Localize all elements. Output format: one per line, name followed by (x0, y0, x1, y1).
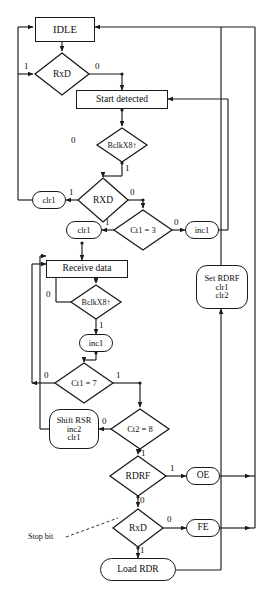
edge-label-rdrf-1: 1 (170, 464, 175, 473)
edge-label-rdrf-0: 0 (140, 496, 145, 505)
edge-label-bclk2-0: 0 (46, 290, 51, 299)
node-start-detected-label: Start detected (96, 95, 148, 105)
edge-label-rxd-bot-1: 1 (140, 546, 145, 555)
node-oe[interactable]: OE (186, 467, 220, 485)
node-fe[interactable]: FE (186, 519, 220, 537)
node-load-rdr-label: Load RDR (117, 565, 158, 575)
node-ct2-eq-8[interactable]: Ct2 = 8 (111, 409, 169, 449)
node-start-detected[interactable]: Start detected (76, 90, 168, 109)
edge-label-bclk1-0: 0 (71, 136, 76, 145)
node-rxd-top-label: RxD (53, 69, 71, 79)
node-shift-rsr[interactable]: Shift RSR inc2 clr1 (49, 409, 99, 449)
edge-label-ct2-8-0: 0 (102, 417, 107, 426)
node-shift-rsr-line3: clr1 (67, 433, 80, 442)
edge-label-rxd-bot-0: 0 (167, 515, 172, 524)
node-ct2-eq-8-label: Ct2 = 8 (127, 424, 153, 434)
node-receive-data[interactable]: Receive data (46, 260, 128, 278)
edge-label-ct2-8-1: 1 (141, 449, 146, 458)
node-rxd-bottom[interactable]: RxD (113, 509, 163, 547)
edge-label-rxd-mid-0: 0 (130, 188, 135, 197)
node-rxd-top[interactable]: RxD (35, 53, 89, 95)
node-clr1-a[interactable]: clr1 (32, 191, 66, 209)
node-ct1-eq-3-label: Ct1 = 3 (130, 225, 156, 235)
edge-label-ct1-7-1: 1 (116, 371, 121, 380)
node-rxd-mid-label: RXD (93, 195, 113, 205)
node-rdrf-label: RDRF (126, 471, 151, 481)
node-inc1-a[interactable]: inc1 (185, 221, 219, 239)
node-bclkx8-1-label: BclkX8↑ (108, 141, 137, 150)
node-inc1-b-label: inc1 (89, 339, 104, 348)
edge-label-rxd-mid-1: 1 (69, 188, 74, 197)
node-rdrf[interactable]: RDRF (110, 456, 166, 496)
edge-label-rxd-top-0: 0 (95, 62, 100, 71)
node-idle[interactable]: IDLE (35, 17, 95, 42)
edge-label-bclk1-1: 1 (125, 164, 130, 173)
edge-label-ct1-7-0: 0 (44, 371, 49, 380)
node-bclkx8-2[interactable]: BclkX8↑ (71, 285, 121, 319)
node-bclkx8-2-label: BclkX8↑ (82, 298, 111, 307)
edge-label-ct1-3-1: 1 (105, 218, 110, 227)
edge-label-rxd-top-1: 1 (24, 62, 29, 71)
node-set-rdrf[interactable]: Set RDRF clr1 clr2 (196, 265, 248, 309)
node-clr1-b[interactable]: clr1 (66, 221, 102, 239)
node-rxd-bottom-label: RxD (129, 523, 147, 533)
edge-label-ct1-3-0: 0 (174, 218, 179, 227)
node-ct1-eq-7-label: Ct1 = 7 (71, 378, 97, 388)
node-oe-label: OE (197, 471, 210, 481)
node-set-rdrf-line3: clr2 (215, 291, 228, 300)
node-ct1-eq-3[interactable]: Ct1 = 3 (114, 210, 172, 250)
node-inc1-b[interactable]: inc1 (79, 334, 113, 352)
node-bclkx8-1[interactable]: BclkX8↑ (97, 128, 147, 162)
edge-label-bclk2-1: 1 (99, 321, 104, 330)
node-fe-label: FE (197, 523, 208, 533)
node-load-rdr[interactable]: Load RDR (100, 558, 176, 581)
annotation-stop-bit: Stop bit (28, 532, 53, 541)
node-ct1-eq-7[interactable]: Ct1 = 7 (55, 363, 113, 403)
node-receive-data-label: Receive data (63, 264, 112, 274)
node-clr1-b-label: clr1 (77, 226, 90, 235)
node-clr1-a-label: clr1 (42, 196, 55, 205)
node-inc1-a-label: inc1 (195, 226, 210, 235)
node-idle-label: IDLE (53, 24, 77, 35)
